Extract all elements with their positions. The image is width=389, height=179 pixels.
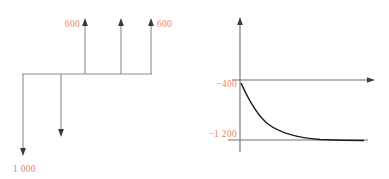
x-axis-arrowhead	[367, 77, 375, 83]
down-arrow-1-label: 1 000	[13, 164, 36, 174]
down-arrow-1	[20, 74, 26, 156]
up-arrow-3-arrowhead	[148, 18, 154, 26]
down-arrow-2-arrowhead	[58, 129, 64, 137]
y-axis-arrowhead	[237, 17, 243, 25]
up-arrow-1-label: 600	[65, 19, 80, 29]
y-tick-label-minus-1200: −1 200	[208, 129, 237, 139]
decay-curve-plot: −400 −1 200	[208, 17, 375, 152]
down-arrow-1-arrowhead	[20, 148, 26, 156]
up-arrow-2-arrowhead	[118, 18, 124, 26]
down-arrow-2	[58, 74, 64, 137]
up-arrow-2	[118, 18, 124, 74]
up-arrow-3	[148, 18, 154, 74]
y-tick-label-minus-400: −400	[216, 79, 237, 89]
up-arrow-3-label: 600	[157, 19, 172, 29]
figure-svg: 600 600 1 000 −400 −1 200	[0, 0, 389, 179]
decay-curve-path	[241, 83, 364, 141]
up-arrow-1	[82, 18, 88, 74]
x-axis	[232, 77, 375, 83]
cash-flow-timeline-diagram: 600 600 1 000	[13, 18, 172, 174]
up-arrow-1-arrowhead	[82, 18, 88, 26]
figure-root: 600 600 1 000 −400 −1 200	[0, 0, 389, 179]
